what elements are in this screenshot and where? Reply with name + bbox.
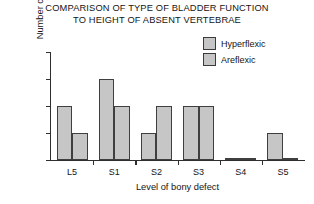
- bar: [199, 106, 215, 160]
- y-axis-tick: [46, 79, 51, 80]
- legend-item-label: Hyperflexic: [221, 39, 266, 49]
- plot-area: 01234 L5S1S2S3S4S5 Number of children Le…: [51, 52, 304, 160]
- x-axis-tick-label: S4: [221, 167, 261, 177]
- y-axis-tick: [46, 160, 51, 161]
- bar: [141, 133, 157, 160]
- bar: [283, 158, 299, 160]
- y-axis-tick: [46, 106, 51, 107]
- x-axis-tick-label: S3: [179, 167, 219, 177]
- x-axis-tick: [135, 160, 136, 165]
- chart-figure: COMPARISON OF TYPE OF BLADDER FUNCTION T…: [0, 0, 314, 204]
- y-axis-tick: [46, 133, 51, 134]
- bar: [99, 79, 115, 160]
- x-axis-tick-label: S5: [263, 167, 303, 177]
- legend-swatch-icon: [203, 37, 216, 50]
- bar: [241, 158, 257, 160]
- x-axis-tick: [93, 160, 94, 165]
- bar: [72, 133, 88, 160]
- x-axis-tick-label: L5: [52, 167, 92, 177]
- bar: [183, 106, 199, 160]
- legend-item-hyperflexic: Hyperflexic: [203, 36, 266, 51]
- x-axis-tick: [220, 160, 221, 165]
- bar: [156, 106, 172, 160]
- y-axis-title: Number of children: [35, 0, 45, 56]
- bar: [225, 158, 241, 160]
- x-axis-tick-label: S2: [136, 167, 176, 177]
- x-axis-tick-label: S1: [94, 167, 134, 177]
- chart-title: COMPARISON OF TYPE OF BLADDER FUNCTION T…: [0, 3, 314, 26]
- bar: [114, 106, 130, 160]
- y-axis-tick: [46, 52, 51, 53]
- bar: [57, 106, 73, 160]
- x-axis-tick: [178, 160, 179, 165]
- x-axis-title: Level of bony defect: [51, 182, 304, 192]
- bar: [267, 133, 283, 160]
- x-axis-tick: [262, 160, 263, 165]
